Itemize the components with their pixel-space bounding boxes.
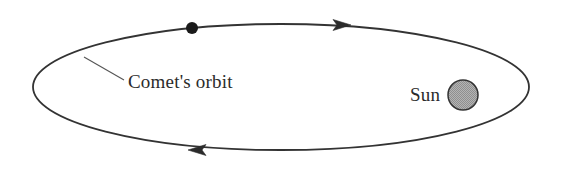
comet-orbit-figure: Comet's orbit Sun [0, 0, 564, 173]
sun-label: Sun [410, 84, 440, 105]
comet-orbit-leader-line [84, 57, 124, 80]
sun-circle-icon [448, 80, 478, 110]
comet-dot-icon [186, 22, 198, 34]
comet-orbit-label: Comet's orbit [128, 71, 233, 92]
orbit-diagram-canvas: Comet's orbit Sun [0, 0, 564, 173]
